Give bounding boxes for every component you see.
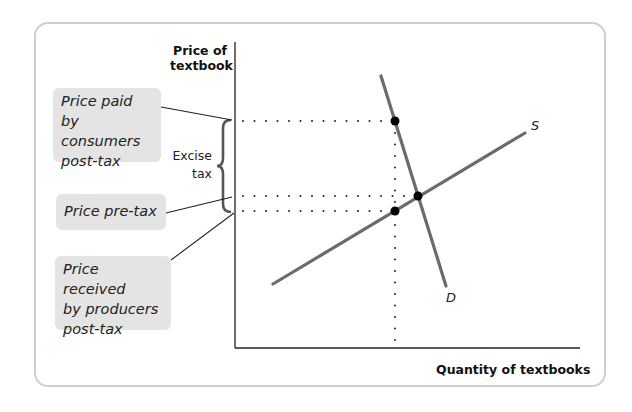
demand-label: D [446,290,456,305]
equilibrium-point [414,192,423,201]
consumer-label-line1: Price paid by [61,91,153,131]
supply-curve [273,133,525,284]
consumer-label-line2: consumers [61,131,153,151]
y-axis-title: Price of textbook [170,43,230,73]
excise-label-line1: Excise [166,147,212,165]
producer-price-label: Price received by producers post-tax [55,256,171,330]
excise-tax-label: Excise tax [166,147,212,183]
y-axis-title-line1: Price of [170,43,230,58]
pretax-price-label: Price pre-tax [56,194,166,230]
producer-price-point [391,207,400,216]
producer-label-line3: post-tax [63,319,163,339]
producers-leader-line [171,213,234,260]
pretax-label-text: Price pre-tax [64,201,158,221]
excise-label-line2: tax [166,165,212,183]
consumer-price-point [391,117,400,126]
demand-curve [381,76,446,286]
producer-label-line2: by producers [63,299,163,319]
consumers-leader-line [161,107,232,120]
x-axis-title: Quantity of textbooks [436,362,590,377]
consumer-price-label: Price paid by consumers post-tax [53,88,161,162]
consumer-label-line3: post-tax [61,151,153,171]
y-axis-title-line2: textbook [170,58,230,73]
supply-label: S [531,118,539,133]
producer-label-line1: Price received [63,259,163,299]
